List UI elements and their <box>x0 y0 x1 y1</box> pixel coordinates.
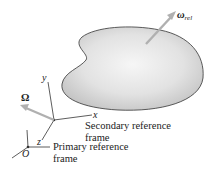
axis-x-label: x <box>93 110 97 120</box>
diagram-stage: ωrel Ω y x z Secondary reference frame O… <box>0 0 210 178</box>
primary-frame-label-line2: frame <box>53 154 77 165</box>
axis-y-label: y <box>42 73 46 83</box>
origin-O-label: O <box>22 149 29 159</box>
primary-frame-label-line1: Primary reference <box>53 142 129 153</box>
omega-subscript: rel <box>185 14 193 22</box>
secondary-frame-label-line1: Secondary reference <box>85 121 171 132</box>
axis-z-label: z <box>37 137 41 147</box>
omega-arrow <box>20 104 54 120</box>
omega-symbol: ω <box>177 9 185 20</box>
omega-rel-label: ωrel <box>177 10 192 22</box>
Omega-label: Ω <box>21 93 29 104</box>
primary-frame-axes <box>12 130 50 158</box>
rigid-body-shape <box>62 27 203 110</box>
